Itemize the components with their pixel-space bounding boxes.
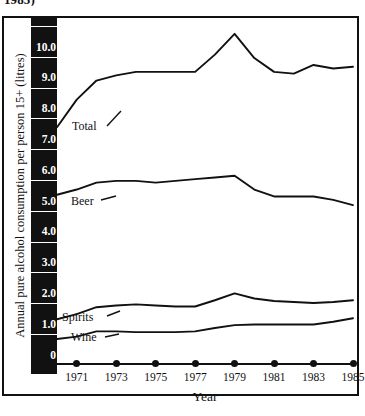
x-tick-label-1977: 1977 <box>184 371 207 383</box>
y-tick-label: 0 <box>50 350 56 363</box>
y-tick-7-0: 7.0 <box>31 118 57 146</box>
x-tick-dot-1981 <box>271 360 278 367</box>
y-tick-label: 8.0 <box>42 103 56 116</box>
series-lines <box>57 20 353 366</box>
series-label-spirits: Spirits <box>62 310 93 325</box>
y-tick-label: 9.0 <box>42 72 56 85</box>
x-axis-line <box>57 363 353 365</box>
x-tick-label-1981: 1981 <box>263 371 286 383</box>
x-tick-label-1975: 1975 <box>144 371 167 383</box>
y-tick-10-0: 10.0 <box>31 26 57 54</box>
y-tick-label: 7.0 <box>42 134 56 147</box>
y-tick-label: 3.0 <box>42 257 56 270</box>
x-tick-dot-1983 <box>310 360 317 367</box>
y-tick-1-0: 1.0 <box>31 303 57 331</box>
y-tick-label: 10.0 <box>36 42 56 55</box>
series-line-beer <box>57 176 353 205</box>
x-axis-label: Year <box>57 389 353 405</box>
series-label-wine: Wine <box>71 330 97 345</box>
y-tick-label: 4.0 <box>42 226 56 239</box>
plot-area <box>57 20 353 366</box>
y-tick-5-0: 5.0 <box>31 180 57 208</box>
x-tick-label-1979: 1979 <box>223 371 246 383</box>
series-line-wine <box>57 318 353 339</box>
y-tick-8-0: 8.0 <box>31 88 57 116</box>
x-tick-label-1983: 1983 <box>302 371 325 383</box>
chart-title-clipped: 1985) <box>4 0 35 6</box>
x-tick-dot-1985 <box>350 360 357 367</box>
x-tick-dot-1973 <box>113 360 120 367</box>
y-tick-4-0: 4.0 <box>31 211 57 239</box>
y-tick-6-0: 6.0 <box>31 149 57 177</box>
series-line-spirits <box>57 293 353 319</box>
y-tick-2-0: 2.0 <box>31 272 57 300</box>
y-tick-label: 6.0 <box>42 165 56 178</box>
y-tick-label: 2.0 <box>42 288 56 301</box>
alcohol-consumption-line-chart: 1985) Annual pure alcohol consumption pe… <box>0 0 365 416</box>
x-tick-label-1971: 1971 <box>65 371 88 383</box>
x-tick-label-1973: 1973 <box>105 371 128 383</box>
y-axis-label: Annual pure alcohol consumption per pers… <box>13 26 28 366</box>
y-tick-label: 5.0 <box>42 196 56 209</box>
series-line-total <box>57 34 353 127</box>
x-tick-dot-1977 <box>192 360 199 367</box>
y-tick-3-0: 3.0 <box>31 242 57 270</box>
y-tick-0: 0 <box>31 334 57 362</box>
y-tick-9-0: 9.0 <box>31 57 57 85</box>
x-tick-label-1985: 1985 <box>342 371 365 383</box>
series-label-total: Total <box>72 119 97 134</box>
y-tick-label: 1.0 <box>42 319 56 332</box>
series-label-beer: Beer <box>71 194 94 209</box>
